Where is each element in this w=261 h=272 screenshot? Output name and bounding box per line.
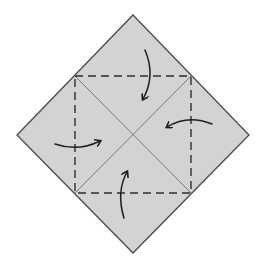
fold-diagram: Origami fold diagram: fold four corners … [0, 0, 261, 272]
